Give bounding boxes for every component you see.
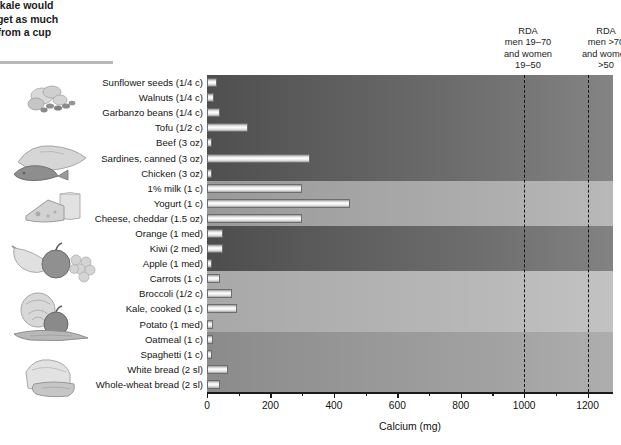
- x-minor-tick-100: [239, 392, 240, 396]
- bar: [207, 304, 237, 313]
- x-tick-600: [397, 392, 398, 398]
- bar: [207, 154, 310, 163]
- caption-line-1: ooked kale would: [0, 0, 156, 13]
- bar: [207, 320, 213, 329]
- x-tick-1000: [524, 392, 525, 398]
- rda-1-line-3: and women: [484, 49, 572, 60]
- figure-caption: ooked kale would eat to get as much ou d…: [0, 0, 156, 40]
- rda-1-line-1: RDA: [484, 26, 572, 37]
- bar: [207, 244, 223, 253]
- x-tick-label-1200: 1200: [563, 400, 613, 411]
- bar: [207, 380, 220, 389]
- x-tick-400: [334, 392, 335, 398]
- caption-line-3: ou do from a cup: [0, 26, 156, 40]
- x-tick-label-400: 400: [309, 400, 359, 411]
- seeds-nuts-illustration: [22, 84, 84, 118]
- x-axis-line: [207, 392, 613, 394]
- meat-fish-illustration: [12, 136, 92, 184]
- caption-divider: [0, 61, 113, 64]
- rda-2-line-4: >50: [562, 60, 621, 71]
- bar: [207, 199, 350, 208]
- bar: [207, 184, 302, 193]
- x-tick-label-1000: 1000: [499, 400, 549, 411]
- bar: [207, 259, 212, 268]
- x-tick-1200: [588, 392, 589, 398]
- x-minor-tick-500: [366, 392, 367, 396]
- bar: [207, 108, 220, 117]
- x-tick-label-0: 0: [182, 400, 232, 411]
- x-tick-0: [207, 392, 208, 398]
- bar: [207, 123, 248, 132]
- bar: [207, 365, 228, 374]
- bar: [207, 335, 213, 344]
- bar: [207, 274, 220, 283]
- x-tick-label-600: 600: [372, 400, 422, 411]
- rda-1-line-4: 19–50: [484, 60, 572, 71]
- rda-reference-line-1200: [588, 75, 589, 392]
- rda-label-1200: RDA men >70 and women >50: [562, 26, 621, 72]
- food-group-band-grain: [207, 332, 613, 392]
- vegetables-illustration: [10, 290, 96, 346]
- x-tick-200: [270, 392, 271, 398]
- cheese-milk-illustration: [22, 188, 86, 228]
- rda-2-line-3: and women: [562, 49, 621, 60]
- bar: [207, 93, 214, 102]
- fruit-illustration: [8, 236, 96, 288]
- bar: [207, 289, 232, 298]
- rda-label-1000: RDA men 19–70 and women 19–50: [484, 26, 572, 72]
- x-minor-tick-1100: [556, 392, 557, 396]
- rda-reference-line-1000: [524, 75, 525, 392]
- x-minor-tick-700: [429, 392, 430, 396]
- x-tick-label-800: 800: [436, 400, 486, 411]
- calcium-chart-figure: ooked kale would eat to get as much ou d…: [0, 0, 621, 445]
- bar: [207, 78, 217, 87]
- x-tick-label-200: 200: [245, 400, 295, 411]
- x-minor-tick-300: [302, 392, 303, 396]
- x-axis-title: Calcium (mg): [207, 421, 613, 432]
- category-label: Tofu (1/2 c): [42, 122, 203, 133]
- bar: [207, 138, 212, 147]
- bar: [207, 350, 212, 359]
- rda-2-line-2: men >70: [562, 37, 621, 48]
- food-group-band-protein: [207, 75, 613, 181]
- rda-1-line-2: men 19–70: [484, 37, 572, 48]
- bar: [207, 214, 302, 223]
- bar: [207, 229, 223, 238]
- food-group-band-vegetable: [207, 271, 613, 331]
- plot-area: [207, 75, 613, 392]
- caption-line-2: eat to get as much: [0, 13, 156, 27]
- rda-2-line-1: RDA: [562, 26, 621, 37]
- x-tick-800: [461, 392, 462, 398]
- bread-grains-illustration: [18, 354, 92, 400]
- x-minor-tick-900: [492, 392, 493, 396]
- bar: [207, 169, 212, 178]
- food-group-band-fruit: [207, 226, 613, 271]
